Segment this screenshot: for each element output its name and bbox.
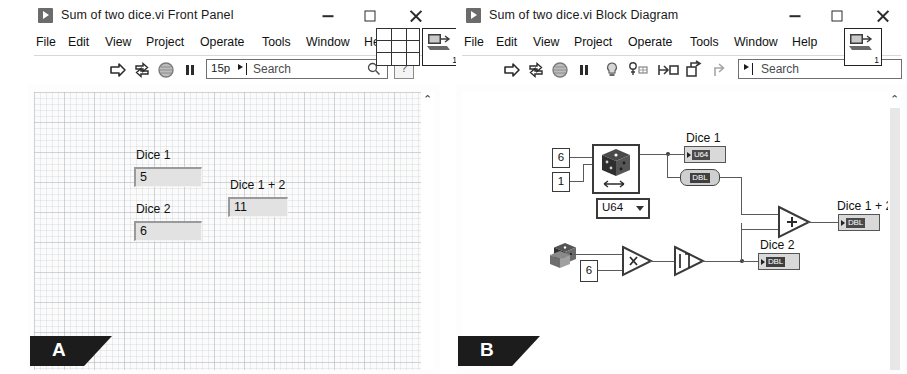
dice-sum-value: 11: [234, 200, 247, 214]
wire-dice-out: [640, 154, 668, 155]
dice2-label: Dice 2: [136, 202, 171, 216]
font-size-selector[interactable]: 15p: [211, 62, 230, 74]
pause-icon[interactable]: [574, 60, 594, 80]
minimize-button[interactable]: [775, 0, 815, 32]
dice2-diagram-label: Dice 2: [760, 238, 795, 252]
labview-run-icon: [38, 8, 53, 23]
dice-sum-terminal-type: DBL: [846, 218, 865, 228]
connector-pane[interactable]: [376, 28, 420, 66]
dice2-indicator[interactable]: 6: [134, 221, 202, 241]
wire-high-to-node: [570, 157, 592, 158]
menu-view[interactable]: View: [105, 35, 131, 49]
wire-branch-down: [667, 154, 668, 178]
dice1-indicator-terminal[interactable]: U64: [684, 146, 726, 163]
labview-run-icon: [466, 8, 481, 23]
random-number-range-icon[interactable]: [592, 144, 640, 194]
run-continuously-icon[interactable]: [132, 60, 152, 80]
block-diagram-toolbar: Search 1: [456, 56, 907, 84]
front-panel-canvas[interactable]: Dice 1 5 Dice 2 6 Dice 1 + 2 11 ⌃: [34, 92, 434, 370]
search-box[interactable]: 15p Search: [206, 59, 388, 79]
random-number-0-1-icon[interactable]: [550, 240, 582, 272]
run-continuously-icon[interactable]: [526, 60, 546, 80]
terminal-arrow-icon: [841, 220, 845, 226]
block-diagram-window: Sum of two dice.vi Block Diagram File Ed…: [456, 0, 907, 374]
constant-range-low[interactable]: 1: [552, 172, 570, 192]
step-into-icon[interactable]: [656, 60, 680, 80]
wire-random-to-multiply: [574, 254, 622, 255]
wire-add-out: [808, 222, 840, 223]
menu-project[interactable]: Project: [146, 35, 184, 49]
menu-edit[interactable]: Edit: [496, 35, 517, 49]
menu-tools[interactable]: Tools: [262, 35, 291, 49]
dice1-terminal-type: U64: [692, 150, 710, 160]
block-diagram-canvas[interactable]: 6 1 U64: [462, 92, 901, 370]
dice1-indicator[interactable]: 5: [134, 167, 202, 187]
text-cursor-icon: [246, 63, 247, 75]
representation-value: U64: [602, 201, 623, 213]
wire-to-coerce: [667, 177, 681, 178]
menu-tools[interactable]: Tools: [690, 35, 719, 49]
run-arrow-icon[interactable]: [108, 60, 128, 80]
block-diagram-scrollbar[interactable]: ⌃: [888, 92, 901, 370]
menu-operate[interactable]: Operate: [200, 35, 244, 49]
menu-window[interactable]: Window: [306, 35, 350, 49]
text-cursor-icon: [752, 63, 753, 75]
wire-to-add-top: [741, 214, 778, 215]
front-panel-scrollbar[interactable]: ⌃: [421, 92, 434, 370]
wire-to-add-bottom: [741, 229, 778, 230]
menu-help[interactable]: Help: [792, 35, 817, 49]
terminal-arrow-icon: [761, 259, 765, 265]
block-diagram-title: Sum of two dice.vi Block Diagram: [489, 8, 678, 22]
step-over-icon[interactable]: [684, 60, 706, 80]
font-size-caret-icon[interactable]: [238, 64, 243, 70]
coercion-type: DBL: [690, 173, 710, 183]
representation-dropdown[interactable]: U64: [596, 198, 650, 219]
menu-file[interactable]: File: [464, 35, 484, 49]
block-diagram-titlebar: Sum of two dice.vi Block Diagram: [456, 0, 907, 32]
menu-project[interactable]: Project: [574, 35, 612, 49]
dice2-value: 6: [140, 224, 147, 238]
dice2-terminal-type: DBL: [766, 257, 785, 267]
step-out-icon[interactable]: [710, 60, 730, 80]
figure-label-a-text: A: [52, 339, 66, 361]
dice1-diagram-label: Dice 1: [686, 131, 721, 145]
pause-icon[interactable]: [180, 60, 200, 80]
abort-execution-icon[interactable]: [550, 60, 570, 80]
search-placeholder: Search: [761, 62, 799, 76]
menu-operate[interactable]: Operate: [628, 35, 672, 49]
scroll-up-icon[interactable]: ⌃: [888, 93, 901, 107]
constant-range-high[interactable]: 6: [552, 148, 570, 168]
vi-icon[interactable]: 1: [844, 28, 882, 66]
menu-file[interactable]: File: [36, 35, 56, 49]
chevron-down-icon[interactable]: [636, 206, 644, 211]
search-placeholder: Search: [253, 62, 291, 76]
vi-icon[interactable]: 1: [422, 28, 460, 66]
dice2-indicator-terminal[interactable]: DBL: [758, 253, 800, 270]
scrollbar-track[interactable]: [890, 108, 900, 370]
retain-wire-values-icon[interactable]: [628, 60, 648, 80]
coercion-dbl-node[interactable]: DBL: [680, 169, 720, 186]
scroll-up-icon[interactable]: ⌃: [421, 93, 434, 107]
menu-window[interactable]: Window: [734, 35, 778, 49]
minimize-button[interactable]: [308, 0, 348, 32]
front-panel-title: Sum of two dice.vi Front Panel: [61, 8, 234, 22]
abort-execution-icon[interactable]: [156, 60, 176, 80]
dice-sum-indicator[interactable]: 11: [228, 197, 288, 217]
menu-view[interactable]: View: [533, 35, 559, 49]
wire-const-to-multiply: [598, 270, 622, 271]
block-diagram-menubar: File Edit View Project Operate Tools Win…: [456, 32, 907, 56]
constant-multiplier[interactable]: 6: [580, 260, 598, 282]
dice1-value: 5: [140, 170, 147, 184]
dice1-label: Dice 1: [136, 148, 171, 162]
run-arrow-icon[interactable]: [502, 60, 522, 80]
figure-label-b-text: B: [480, 339, 494, 361]
dice-sum-diagram-label: Dice 1 + 2: [837, 199, 892, 213]
wire-coerce-down: [741, 177, 742, 215]
highlight-execution-icon[interactable]: [602, 60, 622, 80]
search-caret-icon[interactable]: [744, 64, 749, 70]
menu-edit[interactable]: Edit: [68, 35, 89, 49]
wire-coerce-out: [720, 177, 742, 178]
front-panel-toolbar: 15p Search ?: [28, 56, 440, 84]
dice-sum-label: Dice 1 + 2: [230, 178, 285, 192]
dice-sum-indicator-terminal[interactable]: DBL: [838, 214, 880, 231]
